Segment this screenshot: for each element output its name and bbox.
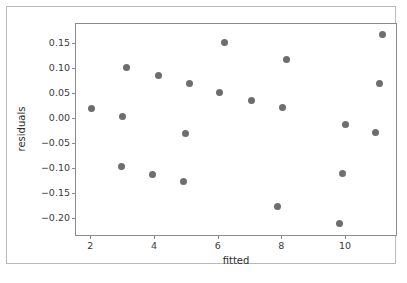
x-tick-label: 4 <box>151 241 157 251</box>
y-tick-mark <box>72 118 76 119</box>
data-point <box>376 80 383 87</box>
data-point <box>186 80 193 87</box>
y-tick-mark <box>72 168 76 169</box>
data-point <box>274 203 281 210</box>
y-tick-mark <box>72 68 76 69</box>
x-tick-label: 10 <box>339 241 351 251</box>
data-point <box>180 178 187 185</box>
y-tick-mark <box>72 93 76 94</box>
y-tick-label: 0.10 <box>49 63 70 73</box>
x-tick-mark <box>218 235 219 239</box>
y-axis-title: residuals <box>16 107 27 152</box>
data-point <box>118 163 125 170</box>
y-tick-mark <box>72 193 76 194</box>
x-tick-label: 6 <box>215 241 221 251</box>
y-tick-label: 0.05 <box>49 88 70 98</box>
y-tick-label: −0.10 <box>41 163 70 173</box>
data-point <box>336 220 343 227</box>
data-point <box>123 64 130 71</box>
y-tick-mark <box>72 43 76 44</box>
data-point <box>372 129 379 136</box>
x-tick-label: 2 <box>87 241 93 251</box>
data-point <box>248 97 255 104</box>
y-tick-label: −0.15 <box>41 188 70 198</box>
y-tick-mark <box>72 143 76 144</box>
y-tick-mark <box>72 218 76 219</box>
scatter-plot-area <box>76 24 396 235</box>
data-point <box>221 39 228 46</box>
x-tick-mark <box>345 235 346 239</box>
x-tick-mark <box>90 235 91 239</box>
y-tick-label: 0.00 <box>49 113 70 123</box>
x-tick-label: 8 <box>278 241 284 251</box>
data-point <box>339 170 346 177</box>
y-tick-label: 0.15 <box>49 38 70 48</box>
figure-frame: 0.150.100.050.00−0.05−0.10−0.15−0.20 246… <box>6 6 396 264</box>
data-point <box>119 113 126 120</box>
residual-plot-figure: 0.150.100.050.00−0.05−0.10−0.15−0.20 246… <box>0 0 407 283</box>
data-point <box>149 171 156 178</box>
x-axis-title: fitted <box>75 255 397 266</box>
x-tick-mark <box>154 235 155 239</box>
data-point <box>342 121 349 128</box>
data-point <box>279 104 286 111</box>
data-point <box>182 130 189 137</box>
plot-axes: 0.150.100.050.00−0.05−0.10−0.15−0.20 246… <box>75 23 397 236</box>
data-point <box>283 56 290 63</box>
y-tick-label: −0.20 <box>41 213 70 223</box>
data-point <box>88 105 95 112</box>
y-tick-label: −0.05 <box>41 138 70 148</box>
data-point <box>379 31 386 38</box>
data-point <box>216 89 223 96</box>
x-tick-mark <box>281 235 282 239</box>
data-point <box>155 72 162 79</box>
